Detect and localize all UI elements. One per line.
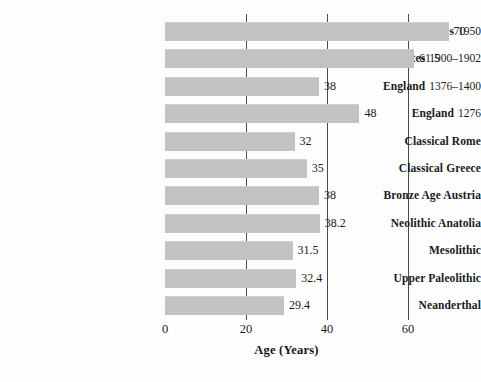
x-axis-tick-labels: 0204060 bbox=[0, 322, 481, 342]
bar-value-label: 29.4 bbox=[284, 296, 310, 314]
bar bbox=[165, 132, 295, 151]
bar-row: United States1900–190261.5 bbox=[0, 48, 481, 68]
x-tick-40: 40 bbox=[321, 322, 334, 337]
bar-row: Neolithic Anatolia38.2 bbox=[0, 213, 481, 233]
category-place: Mesolithic bbox=[429, 244, 481, 256]
bar bbox=[165, 159, 307, 178]
bar-row: Mesolithic31.5 bbox=[0, 240, 481, 260]
bar-row: Classical Rome32 bbox=[0, 131, 481, 151]
bar-value-label: 70 bbox=[449, 22, 466, 40]
bar-value-label: 61.5 bbox=[414, 49, 440, 67]
category-period: 1276 bbox=[458, 107, 481, 119]
category-place: Bronze Age Austria bbox=[384, 189, 481, 201]
category-place: England bbox=[412, 107, 454, 119]
x-tick-20: 20 bbox=[240, 322, 253, 337]
bar-value-label: 38 bbox=[319, 77, 336, 95]
bar-row: England1376–140038 bbox=[0, 76, 481, 96]
bar-value-label: 38.2 bbox=[320, 214, 346, 232]
bar-row: United States195070 bbox=[0, 21, 481, 41]
category-label: Bronze Age Austria bbox=[335, 185, 481, 205]
category-label: Upper Paleolithic bbox=[335, 268, 481, 288]
x-tick-0: 0 bbox=[162, 322, 168, 337]
category-period: 1376–1400 bbox=[429, 80, 481, 92]
bar-value-label: 32 bbox=[295, 132, 312, 150]
bar-row: Upper Paleolithic32.4 bbox=[0, 268, 481, 288]
bar bbox=[165, 77, 319, 96]
category-place: England bbox=[383, 80, 425, 92]
bar bbox=[165, 214, 320, 233]
x-axis-title: Age (Years) bbox=[165, 343, 408, 358]
bar-value-label: 31.5 bbox=[293, 241, 319, 259]
bar-row: Neanderthal29.4 bbox=[0, 295, 481, 315]
category-place: Classical Greece bbox=[399, 162, 481, 174]
bar-row: England127648 bbox=[0, 103, 481, 123]
bar-row: Classical Greece35 bbox=[0, 158, 481, 178]
category-label: Neanderthal bbox=[335, 295, 481, 315]
bar bbox=[165, 296, 284, 315]
category-place: Classical Rome bbox=[405, 135, 481, 147]
category-place: Neolithic Anatolia bbox=[391, 217, 481, 229]
category-label: Classical Greece bbox=[335, 158, 481, 178]
category-label: Neolithic Anatolia bbox=[335, 213, 481, 233]
category-label: England1376–1400 bbox=[335, 76, 481, 96]
category-label: Classical Rome bbox=[335, 131, 481, 151]
category-place: Neanderthal bbox=[419, 299, 481, 311]
x-tick-60: 60 bbox=[402, 322, 415, 337]
bar-value-label: 32.4 bbox=[296, 269, 322, 287]
bar-row: Bronze Age Austria38 bbox=[0, 185, 481, 205]
bar-value-label: 38 bbox=[319, 186, 336, 204]
category-place: Upper Paleolithic bbox=[394, 272, 481, 284]
bar bbox=[165, 269, 296, 288]
bar bbox=[165, 49, 414, 68]
category-label: Mesolithic bbox=[335, 240, 481, 260]
bar bbox=[165, 241, 293, 260]
bar bbox=[165, 186, 319, 205]
bar-chart: United States195070United States1900–190… bbox=[0, 0, 481, 382]
bar bbox=[165, 104, 359, 123]
bar-value-label: 48 bbox=[359, 104, 376, 122]
bar bbox=[165, 22, 449, 41]
bar-value-label: 35 bbox=[307, 159, 324, 177]
